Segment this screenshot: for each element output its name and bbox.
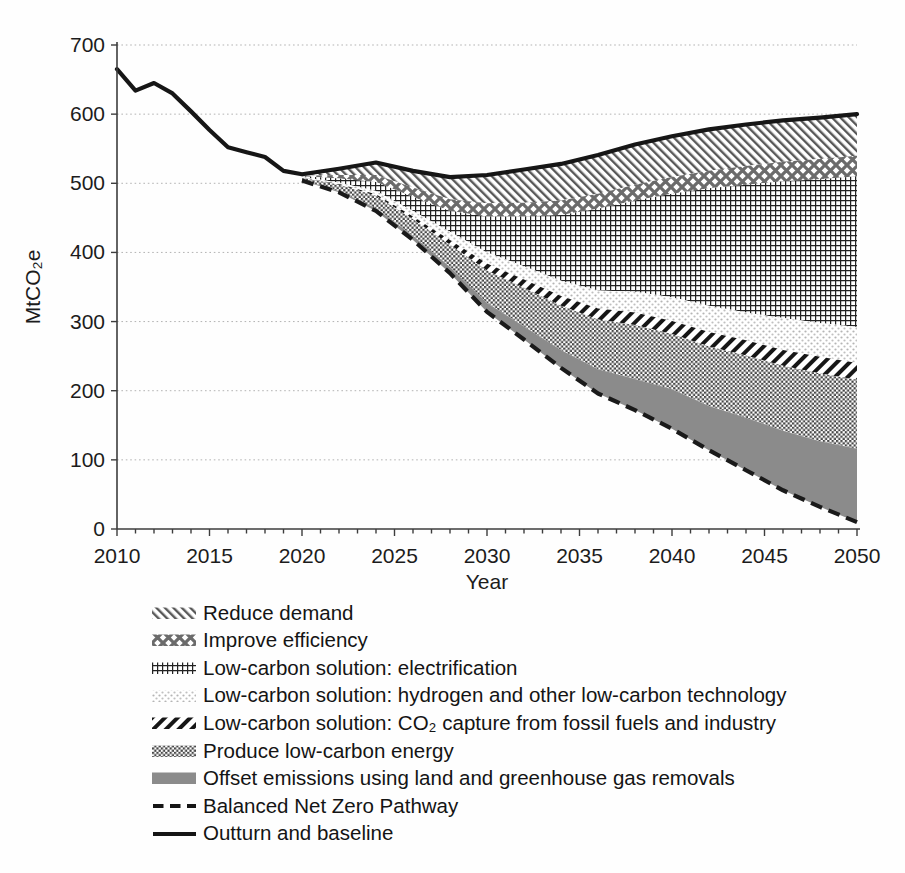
chart-legend: Reduce demand Improve efficiency Low-car… — [152, 599, 786, 847]
x-tick-label: 2010 — [94, 544, 141, 567]
legend-item-offsets: Offset emissions using land and greenhou… — [152, 765, 786, 793]
legend-swatch-co2-capture-icon — [152, 715, 197, 731]
legend-label-improve-efficiency: Improve efficiency — [203, 630, 368, 651]
legend-label-electrification: Low-carbon solution: electrification — [203, 658, 518, 679]
x-axis-ticks: 201020152020202520302035204020452050 — [94, 529, 881, 567]
x-tick-label: 2050 — [834, 544, 881, 567]
legend-item-outturn: Outturn and baseline — [152, 820, 786, 848]
x-tick-label: 2015 — [186, 544, 233, 567]
x-axis-title: Year — [466, 570, 508, 593]
legend-item-reduce-demand: Reduce demand — [152, 599, 786, 627]
x-tick-label: 2035 — [556, 544, 603, 567]
y-axis-title: MtCO₂e — [21, 250, 44, 325]
legend-item-improve-efficiency: Improve efficiency — [152, 627, 786, 655]
legend-label-offsets: Offset emissions using land and greenhou… — [203, 768, 735, 789]
y-axis-ticks: 0100200300400500600700 — [70, 33, 117, 540]
legend-item-bnzp: Balanced Net Zero Pathway — [152, 792, 786, 820]
y-tick-label: 200 — [70, 379, 105, 402]
legend-swatch-produce-lowcarbon-icon — [152, 743, 197, 759]
legend-swatch-outturn-solid-line-icon — [152, 826, 197, 842]
x-tick-label: 2020 — [279, 544, 326, 567]
legend-swatch-offsets-icon — [152, 770, 197, 786]
legend-label-hydrogen: Low-carbon solution: hydrogen and other … — [203, 685, 786, 706]
legend-item-electrification: Low-carbon solution: electrification — [152, 654, 786, 682]
legend-label-produce-lowcarbon: Produce low-carbon energy — [203, 741, 454, 762]
legend-item-produce-lowcarbon: Produce low-carbon energy — [152, 737, 786, 765]
y-tick-label: 600 — [70, 102, 105, 125]
y-tick-label: 400 — [70, 240, 105, 263]
x-tick-label: 2025 — [371, 544, 418, 567]
legend-item-co2-capture: Low-carbon solution: CO₂ capture from fo… — [152, 709, 786, 737]
legend-label-reduce-demand: Reduce demand — [203, 603, 353, 624]
y-tick-label: 500 — [70, 171, 105, 194]
y-tick-label: 100 — [70, 448, 105, 471]
legend-swatch-bnzp-dashed-line-icon — [152, 798, 197, 814]
legend-label-outturn: Outturn and baseline — [203, 823, 393, 844]
legend-label-co2-capture: Low-carbon solution: CO₂ capture from fo… — [203, 713, 776, 734]
legend-swatch-hydrogen-icon — [152, 688, 197, 704]
legend-item-hydrogen: Low-carbon solution: hydrogen and other … — [152, 682, 786, 710]
y-tick-label: 300 — [70, 310, 105, 333]
emissions-pathway-figure: 0100200300400500600700201020152020202520… — [0, 0, 905, 873]
legend-swatch-improve-efficiency-icon — [152, 632, 197, 648]
y-tick-label: 0 — [93, 517, 105, 540]
legend-swatch-reduce-demand-icon — [152, 605, 197, 621]
x-tick-label: 2040 — [649, 544, 696, 567]
legend-label-bnzp: Balanced Net Zero Pathway — [203, 796, 458, 817]
x-tick-label: 2030 — [464, 544, 511, 567]
y-tick-label: 700 — [70, 33, 105, 56]
x-tick-label: 2045 — [741, 544, 788, 567]
stacked-area-chart: 0100200300400500600700201020152020202520… — [0, 0, 905, 600]
wedge-areas — [302, 114, 857, 522]
legend-swatch-electrification-icon — [152, 660, 197, 676]
